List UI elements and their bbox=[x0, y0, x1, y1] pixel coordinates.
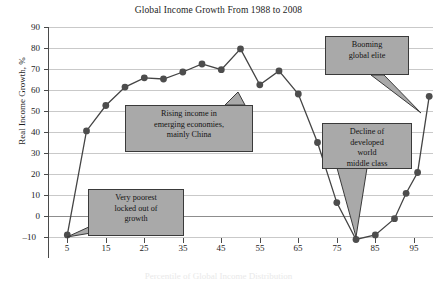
annotation-rising-income-line3: mainly China bbox=[128, 130, 250, 141]
annotation-very-poorest[interactable]: Very poorest locked out of growth bbox=[88, 189, 184, 236]
annotation-rising-income-line2: emerging economies, bbox=[128, 120, 250, 131]
pointer-declining-middle bbox=[337, 168, 367, 237]
annotation-declining-middle-line3: world bbox=[325, 148, 409, 159]
chart-figure: Global Income Growth From 1988 to 2008 R… bbox=[0, 0, 437, 281]
annotation-very-poorest-line2: locked out of bbox=[91, 204, 181, 215]
annotation-rising-income[interactable]: Rising income in emerging economies, mai… bbox=[125, 105, 253, 152]
annotation-booming-elite[interactable]: Booming global elite bbox=[325, 36, 409, 75]
annotation-declining-middle-line2: developed bbox=[325, 138, 409, 149]
annotation-declining-middle-line1: Decline of bbox=[325, 127, 409, 138]
annotation-rising-income-line1: Rising income in bbox=[128, 109, 250, 120]
annotation-booming-elite-line1: Booming bbox=[328, 40, 406, 51]
annotation-booming-elite-line2: global elite bbox=[328, 51, 406, 62]
pointer-rising-income bbox=[225, 92, 245, 105]
annotation-declining-middle-line4: middle class bbox=[325, 159, 409, 170]
annotation-very-poorest-line1: Very poorest bbox=[91, 193, 181, 204]
annotation-very-poorest-line3: growth bbox=[91, 214, 181, 225]
pointer-booming-elite bbox=[371, 75, 421, 113]
annotation-declining-middle[interactable]: Decline of developed world middle class bbox=[322, 123, 412, 169]
